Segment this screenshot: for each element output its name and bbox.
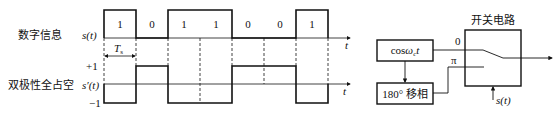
bit-label: 0: [245, 18, 251, 30]
bit-label: 1: [309, 18, 315, 30]
bit-label: 1: [213, 18, 219, 30]
bpsk-diagram: 数字信息 双极性全占空 s(t) s′(t) +1 −1 t 1 0 1 1 0…: [0, 0, 556, 120]
label-plus-one: +1: [86, 60, 98, 72]
bit-label: 0: [277, 18, 283, 30]
bit-label: 0: [149, 18, 155, 30]
bit-boundaries: [104, 38, 328, 103]
label-bipolar-nrz: 双极性全占空: [8, 78, 74, 92]
control-label: s(t): [496, 94, 511, 107]
phase-shift-label: 180° 移相: [382, 88, 428, 100]
t-axis-label-top: t: [345, 39, 349, 51]
label-s-prime-t: s′(t): [82, 79, 99, 92]
ts-label: Ts: [114, 42, 123, 56]
t-axis-label-bottom: t: [343, 85, 347, 97]
switch-title: 开关电路: [471, 13, 515, 27]
bit-label: 1: [181, 18, 187, 30]
carrier-label: cosωct: [391, 44, 421, 58]
s-prime-t-waveform: [104, 66, 328, 103]
input-pi-label: π: [451, 54, 457, 66]
bit-label: 1: [117, 18, 123, 30]
label-s-t: s(t): [82, 29, 97, 42]
input-0-label: 0: [455, 35, 461, 47]
label-minus-one: −1: [89, 97, 101, 109]
label-digital-info: 数字信息: [18, 28, 62, 42]
